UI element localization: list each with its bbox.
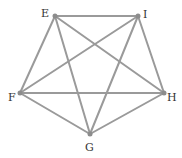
- edge-e-h: [55, 16, 164, 93]
- vertex-label-i: I: [143, 8, 147, 21]
- edge-i-g: [90, 16, 138, 134]
- vertex-label-e: E: [41, 7, 49, 20]
- edge-i-h: [138, 16, 164, 93]
- vertex-g: [88, 132, 93, 137]
- edges-group: [20, 16, 164, 134]
- vertex-label-h: H: [167, 91, 177, 104]
- vertex-label-g: G: [85, 141, 94, 154]
- complete-graph-k5: EIFHG: [0, 0, 182, 158]
- vertex-e: [53, 14, 58, 19]
- vertex-label-f: F: [8, 91, 16, 104]
- vertex-i: [136, 14, 141, 19]
- edge-g-h: [90, 93, 164, 134]
- vertex-h: [162, 91, 167, 96]
- vertex-f: [18, 91, 23, 96]
